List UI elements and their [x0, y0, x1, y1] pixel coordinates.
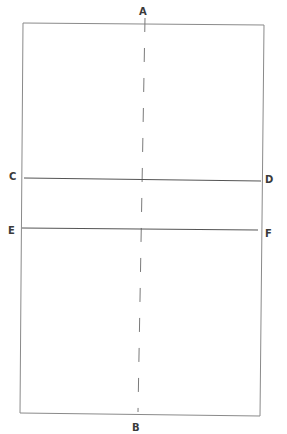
rectangle-frame	[20, 23, 264, 416]
label-e: E	[8, 225, 15, 236]
label-a: A	[139, 6, 147, 17]
label-d: D	[265, 174, 273, 185]
label-f: F	[265, 228, 272, 239]
centerline-a-b	[138, 18, 145, 412]
diagram-canvas: A B C D E F	[0, 0, 287, 434]
label-c: C	[9, 171, 16, 182]
line-e-f	[22, 228, 258, 230]
label-b: B	[132, 422, 140, 433]
